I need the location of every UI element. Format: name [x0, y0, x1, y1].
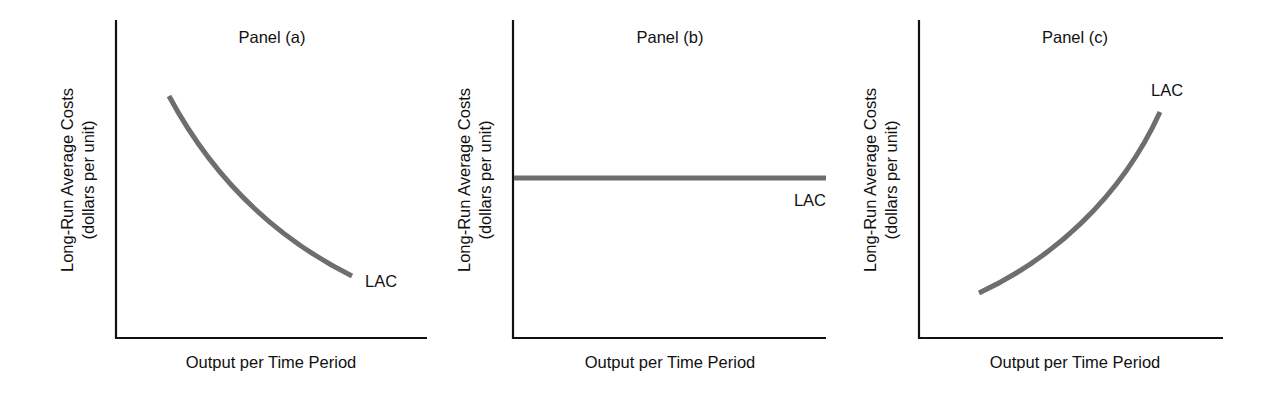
panel-b-lac-label: LAC: [794, 191, 826, 209]
panel-c-xlabel: Output per Time Period: [990, 353, 1161, 371]
panel-a-title: Panel (a): [239, 28, 306, 46]
panel-c-ylabel: Long-Run Average Costs: [861, 88, 879, 272]
panel-a-axes: [116, 20, 427, 338]
panel-b: Panel (b) Output per Time Period Long-Ru…: [455, 20, 826, 371]
panel-a-lac-label: LAC: [365, 272, 397, 290]
panel-b-ylabel-sub: (dollars per unit): [476, 120, 494, 239]
panel-c: Panel (c) Output per Time Period Long-Ru…: [861, 20, 1223, 371]
panel-c-ylabel-sub: (dollars per unit): [882, 120, 900, 239]
panel-a-xlabel: Output per Time Period: [186, 353, 357, 371]
panel-a-lac-curve: [169, 96, 352, 276]
panel-b-ylabel: Long-Run Average Costs: [455, 88, 473, 272]
panel-a-ylabel-sub: (dollars per unit): [79, 120, 97, 239]
panel-b-xlabel: Output per Time Period: [585, 353, 756, 371]
panel-c-lac-label: LAC: [1151, 81, 1183, 99]
panel-b-title: Panel (b): [637, 28, 704, 46]
panel-c-title: Panel (c): [1042, 28, 1108, 46]
panel-a-ylabel: Long-Run Average Costs: [58, 88, 76, 272]
panel-c-lac-curve: [979, 112, 1160, 293]
panel-c-axes: [919, 20, 1223, 338]
lac-figure: Panel (a) Output per Time Period Long-Ru…: [0, 0, 1275, 399]
panel-a: Panel (a) Output per Time Period Long-Ru…: [58, 20, 427, 371]
